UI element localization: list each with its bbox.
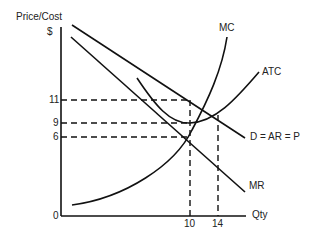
x-axis-label: Qty <box>252 210 268 220</box>
atc-label: ATC <box>262 67 281 77</box>
x-tick-14: 14 <box>212 219 223 229</box>
y-tick-9: 9 <box>53 118 59 128</box>
y-tick-11: 11 <box>49 95 59 105</box>
demand-curve <box>72 25 245 138</box>
x-tick-10: 10 <box>184 219 195 229</box>
origin-label: 0 <box>53 211 59 221</box>
demand-label: D = AR = P <box>250 132 300 142</box>
y-axis-unit: $ <box>47 27 53 37</box>
mc-label: MC <box>219 23 235 33</box>
y-tick-6: 6 <box>53 132 59 142</box>
mr-label: MR <box>249 181 265 191</box>
y-axis-label: Price/Cost <box>16 12 62 22</box>
